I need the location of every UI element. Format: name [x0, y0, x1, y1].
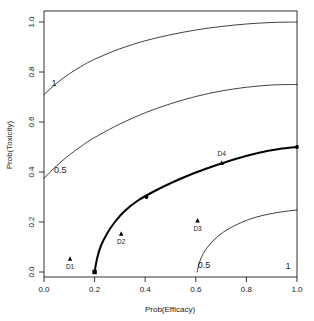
chart-container: 0.00.20.40.60.81.00.00.20.40.60.81.0 D1D… [0, 0, 314, 321]
efficacy-toxicity-contour-plot: 0.00.20.40.60.81.00.00.20.40.60.81.0 D1D… [0, 0, 314, 321]
x-tick-label: 0.4 [140, 285, 152, 294]
thick-curve-mid-marker [145, 195, 149, 199]
contour-level-label-2: 0.5 [198, 260, 211, 270]
thick-curve-start-marker [92, 270, 96, 274]
x-axis-title: Prob(Efficacy) [145, 305, 195, 314]
dose-label-d3: D3 [193, 225, 202, 232]
contour-level-label-1: 0.5 [54, 165, 67, 175]
dose-label-d1: D1 [66, 263, 75, 270]
y-tick-label: 0.0 [27, 266, 36, 278]
thick-curve-end-marker [295, 145, 299, 149]
y-tick-label: 0.2 [27, 216, 36, 228]
x-tick-label: 1.0 [291, 285, 303, 294]
y-axis-title: Prob(Toxicity) [5, 120, 14, 169]
x-tick-label: 0.2 [89, 285, 101, 294]
y-tick-label: 0.6 [27, 116, 36, 128]
x-tick-label: 0.0 [38, 285, 50, 294]
x-tick-label: 0.8 [241, 285, 253, 294]
y-tick-label: 0.8 [27, 66, 36, 78]
x-tick-label: 0.6 [190, 285, 202, 294]
y-tick-label: 0.4 [27, 166, 36, 178]
y-tick-label: 1.0 [27, 16, 36, 28]
dose-label-d2: D2 [117, 238, 126, 245]
contour-level-label-0: 1 [52, 78, 57, 88]
contour-level-label-3: 1 [286, 261, 291, 271]
dose-label-d4: D4 [217, 150, 226, 157]
plot-background [0, 0, 314, 321]
